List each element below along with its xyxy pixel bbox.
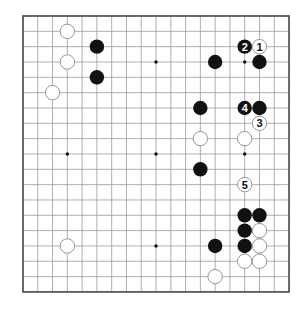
white-stone [60, 24, 74, 38]
black-stone-move-4: 4 [238, 101, 252, 115]
black-stone [238, 208, 252, 222]
white-stone [238, 131, 252, 145]
white-stone [252, 239, 266, 253]
black-stone-move-2: 2 [238, 39, 252, 53]
white-stone [238, 254, 252, 268]
black-stone [238, 239, 252, 253]
star-point [243, 152, 246, 155]
white-stone-move-3: 3 [252, 116, 266, 130]
star-point [243, 60, 246, 63]
go-board-diagram: 21435 [0, 0, 298, 320]
white-stone [252, 254, 266, 268]
black-stone [252, 101, 266, 115]
black-stone [193, 101, 207, 115]
white-stone [252, 223, 266, 237]
white-stone [208, 269, 222, 283]
move-number: 4 [242, 102, 249, 114]
star-point [154, 244, 157, 247]
black-stone [252, 55, 266, 69]
black-stone [90, 39, 104, 53]
black-stone [193, 162, 207, 176]
move-number: 2 [242, 41, 248, 53]
black-stone [90, 70, 104, 84]
white-stone [60, 55, 74, 69]
black-stone [252, 208, 266, 222]
star-point [66, 152, 69, 155]
black-stone [208, 55, 222, 69]
star-point [154, 152, 157, 155]
move-number: 1 [256, 41, 262, 53]
black-stone [238, 223, 252, 237]
white-stone [193, 131, 207, 145]
white-stone-move-1: 1 [252, 39, 266, 53]
star-point [154, 60, 157, 63]
white-stone [60, 239, 74, 253]
black-stone [208, 239, 222, 253]
white-stone [45, 85, 59, 99]
move-number: 3 [256, 117, 262, 129]
move-number: 5 [242, 179, 248, 191]
white-stone-move-5: 5 [238, 177, 252, 191]
